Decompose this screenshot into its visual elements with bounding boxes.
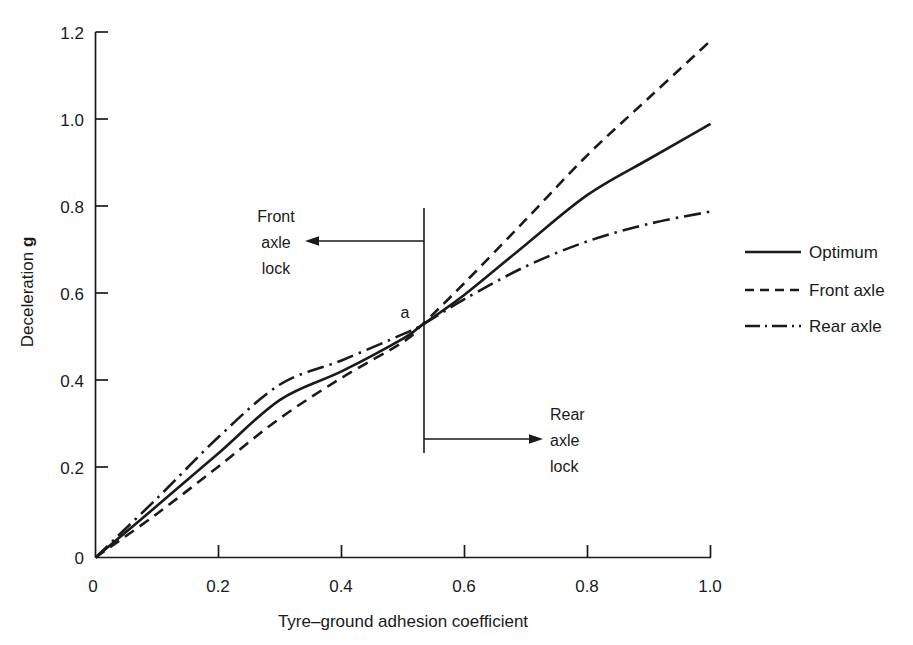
- x-tick-label-0.2: 0.2: [206, 577, 230, 596]
- chart-figure: 1.2 1.0 0.8 0.6 0.4 0.2 0 0 0.2 0.4 0.6 …: [0, 0, 913, 645]
- y-tick-label-0.4: 0.4: [60, 372, 84, 391]
- rear-axle-lock-line3: lock: [550, 458, 579, 475]
- y-axis-title: Deceleration g: [18, 237, 37, 348]
- rear-axle-lock-line2: axle: [550, 432, 579, 449]
- deceleration-vs-adhesion-chart: 1.2 1.0 0.8 0.6 0.4 0.2 0 0 0.2 0.4 0.6 …: [0, 0, 913, 645]
- y-tick-label-0.2: 0.2: [60, 459, 84, 478]
- y-tick-label-1.0: 1.0: [60, 111, 84, 130]
- y-axis-title-unit: g: [18, 237, 37, 247]
- x-tick-label-0.6: 0.6: [452, 577, 476, 596]
- y-tick-label-0: 0: [75, 549, 84, 568]
- legend-label-front-axle: Front axle: [809, 281, 885, 300]
- x-tick-label-0.4: 0.4: [329, 577, 353, 596]
- x-tick-label-1.0: 1.0: [698, 577, 722, 596]
- x-axis-title: Tyre–ground adhesion coefficient: [278, 612, 528, 631]
- rear-axle-lock-line1: Rear: [550, 406, 585, 423]
- y-tick-label-0.6: 0.6: [60, 285, 84, 304]
- point-a-label: a: [401, 304, 410, 321]
- y-axis-title-main: Deceleration: [18, 247, 37, 347]
- legend-label-optimum: Optimum: [809, 243, 878, 262]
- front-axle-lock-line3: lock: [262, 260, 291, 277]
- x-tick-label-0: 0: [88, 577, 97, 596]
- front-axle-lock-label: Front axle lock: [257, 208, 295, 277]
- x-tick-label-0.8: 0.8: [575, 577, 599, 596]
- y-tick-label-0.8: 0.8: [60, 198, 84, 217]
- y-tick-label-1.2: 1.2: [60, 24, 84, 43]
- chart-background: [0, 0, 913, 645]
- legend-label-rear-axle: Rear axle: [809, 317, 882, 336]
- front-axle-lock-line2: axle: [261, 234, 290, 251]
- front-axle-lock-line1: Front: [257, 208, 295, 225]
- svg-text:Deceleration g: Deceleration g: [18, 237, 37, 348]
